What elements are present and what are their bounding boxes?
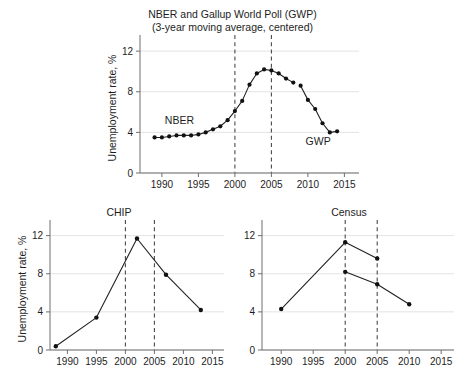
series-point-0-1 [160, 135, 164, 139]
y-axis-title: Unemployment rate, % [106, 55, 118, 162]
y-tick-label-0: 0 [249, 345, 255, 356]
chart-title: NBER and Gallup World Poll (GWP) [100, 8, 365, 21]
series-point-0-11 [233, 109, 237, 113]
series-point-0-4 [182, 133, 186, 137]
x-tick-label-2015: 2015 [430, 356, 453, 367]
panel-nber-gwp: NBER and Gallup World Poll (GWP) (3-year… [100, 8, 365, 200]
y-axis-title: Unemployment rate, % [16, 236, 28, 343]
y-tick-label-0: 0 [37, 345, 43, 356]
x-tick-label-2000: 2000 [334, 356, 357, 367]
y-tick-label-12: 12 [244, 230, 256, 241]
series-point-0-17 [277, 71, 281, 75]
series-point-1-0 [343, 270, 347, 274]
chip-title: CHIP [8, 206, 230, 218]
census-title: Census [238, 206, 460, 218]
series-point-0-15 [262, 67, 266, 71]
panel-census: Census 04812199019952000200520102015 [238, 206, 460, 380]
x-tick-label-1990: 1990 [270, 356, 293, 367]
x-tick-label-1995: 1995 [187, 179, 210, 190]
series-point-1-2 [313, 107, 317, 111]
x-tick-label-1990: 1990 [151, 179, 174, 190]
x-tick-label-2015: 2015 [333, 179, 356, 190]
series-line-1 [301, 86, 338, 133]
series-point-1-0 [299, 84, 303, 88]
series-point-1-5 [335, 129, 339, 133]
y-tick-label-8: 8 [37, 268, 43, 279]
series-point-0-4 [199, 308, 203, 312]
plot-area-census: 04812199019952000200520102015 [238, 218, 460, 376]
series-point-1-2 [407, 302, 411, 306]
x-tick-label-2010: 2010 [297, 179, 320, 190]
figure-canvas: NBER and Gallup World Poll (GWP) (3-year… [0, 0, 463, 380]
x-tick-label-1995: 1995 [302, 356, 325, 367]
series-point-0-0 [54, 344, 58, 348]
series-point-1-1 [375, 282, 379, 286]
series-point-0-2 [375, 256, 379, 260]
series-point-0-9 [218, 124, 222, 128]
series-point-0-1 [94, 315, 98, 319]
series-annotation-gwp: GWP [306, 135, 331, 147]
y-tick-label-4: 4 [127, 127, 133, 138]
y-tick-label-12: 12 [122, 46, 134, 57]
x-tick-label-2005: 2005 [260, 179, 283, 190]
series-line-0 [155, 69, 294, 137]
series-point-0-2 [135, 236, 139, 240]
series-point-0-16 [269, 68, 273, 72]
series-point-0-6 [196, 132, 200, 136]
y-tick-label-8: 8 [249, 268, 255, 279]
x-tick-label-1990: 1990 [56, 356, 79, 367]
x-tick-label-1995: 1995 [85, 356, 108, 367]
plot-area-chip: 04812199019952000200520102015Unemploymen… [8, 218, 230, 376]
x-tick-label-2015: 2015 [201, 356, 224, 367]
series-point-1-4 [328, 130, 332, 134]
series-point-0-12 [240, 99, 244, 103]
series-point-0-18 [284, 76, 288, 80]
x-tick-label-2010: 2010 [172, 356, 195, 367]
x-tick-label-2005: 2005 [143, 356, 166, 367]
series-point-1-1 [306, 98, 310, 102]
chart-subtitle: (3-year moving average, centered) [100, 21, 365, 34]
series-point-1-3 [320, 121, 324, 125]
panel-chip: CHIP 04812199019952000200520102015Unempl… [8, 206, 230, 380]
census-plot-svg: 04812199019952000200520102015 [238, 218, 460, 376]
y-tick-label-12: 12 [32, 230, 44, 241]
chip-plot-svg: 04812199019952000200520102015Unemploymen… [8, 218, 230, 376]
x-tick-label-2000: 2000 [224, 179, 247, 190]
nber-gwp-plot-svg: 04812199019952000200520102015Unemploymen… [100, 33, 365, 199]
series-line-0 [56, 238, 201, 346]
series-point-0-3 [174, 133, 178, 137]
y-tick-label-0: 0 [127, 168, 133, 179]
series-point-0-0 [153, 135, 157, 139]
series-annotation-nber: NBER [165, 114, 195, 126]
x-tick-label-2005: 2005 [366, 356, 389, 367]
y-tick-label-4: 4 [37, 306, 43, 317]
series-point-0-0 [279, 307, 283, 311]
y-tick-label-4: 4 [249, 306, 255, 317]
plot-area-nber-gwp: 04812199019952000200520102015Unemploymen… [100, 33, 365, 199]
series-point-0-2 [167, 134, 171, 138]
series-line-0 [281, 242, 377, 309]
series-point-0-3 [164, 273, 168, 277]
series-point-0-14 [255, 71, 259, 75]
x-tick-label-2000: 2000 [114, 356, 137, 367]
series-point-0-13 [247, 83, 251, 87]
series-point-0-1 [343, 240, 347, 244]
series-point-0-5 [189, 133, 193, 137]
y-tick-label-8: 8 [127, 86, 133, 97]
x-tick-label-2010: 2010 [398, 356, 421, 367]
series-point-0-10 [226, 118, 230, 122]
series-point-0-8 [211, 127, 215, 131]
series-point-0-19 [291, 81, 295, 85]
series-point-0-7 [204, 130, 208, 134]
